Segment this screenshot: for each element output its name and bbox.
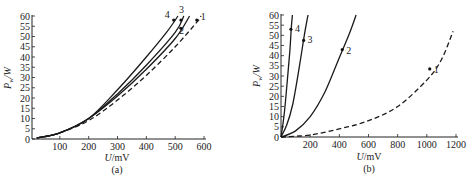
y-axis-label: Pw/W	[251, 63, 264, 88]
series-label-4: 4	[165, 9, 170, 20]
x-tick-label: 200	[303, 139, 318, 150]
x-tick-label: 400	[332, 139, 347, 150]
chart-caption: (a)	[111, 164, 122, 176]
series-label-2: 2	[346, 45, 351, 56]
x-tick-label: 600	[361, 139, 376, 150]
series-line-1	[37, 16, 201, 138]
series-label-4: 4	[295, 23, 300, 34]
y-tick-label: 15	[20, 103, 30, 114]
y-tick-label: 20	[269, 91, 279, 102]
x-tick-label: 300	[110, 141, 125, 152]
y-tick-label: 10	[20, 113, 30, 124]
y-tick-label: 40	[20, 52, 30, 63]
series-line-3	[37, 16, 184, 138]
series-label-3: 3	[179, 4, 184, 15]
y-axis-label: Pw/W	[2, 65, 15, 90]
y-tick-label: 60	[269, 10, 279, 21]
y-tick-label: 35	[20, 62, 30, 73]
series-marker	[341, 48, 344, 51]
y-tick-label: 45	[20, 41, 30, 52]
series-line-2	[281, 15, 356, 137]
series-marker	[302, 39, 305, 42]
y-tick-label: 0	[274, 132, 279, 143]
y-tick-label: 30	[20, 72, 30, 83]
series-marker	[428, 67, 431, 70]
series-marker	[172, 19, 175, 22]
y-tick-label: 15	[269, 101, 279, 112]
x-tick-label: 200	[81, 141, 96, 152]
x-tick-label: 800	[390, 139, 405, 150]
chart-caption: (b)	[363, 163, 375, 175]
series-marker	[179, 19, 182, 22]
y-tick-label: 25	[20, 82, 30, 93]
y-tick-label: 40	[269, 50, 279, 61]
x-tick-label: 100	[52, 141, 67, 152]
y-tick-label: 55	[20, 21, 30, 32]
x-axis-label: U/mV	[356, 151, 382, 162]
x-tick-label: 1000	[417, 139, 437, 150]
figure: 0510152025303540455055601002003004005006…	[0, 0, 467, 180]
y-tick-label: 60	[20, 11, 30, 22]
x-axis-label: U/mV	[104, 152, 130, 163]
x-tick-label: 600	[197, 141, 212, 152]
series-marker	[195, 19, 198, 22]
series-label-1: 1	[201, 11, 206, 22]
y-tick-label: 5	[25, 123, 30, 134]
series-line-4	[37, 16, 178, 138]
y-tick-label: 5	[274, 121, 279, 132]
y-tick-label: 25	[269, 81, 279, 92]
y-tick-label: 30	[269, 71, 279, 82]
series-label-1: 1	[434, 64, 439, 75]
y-tick-label: 50	[269, 30, 279, 41]
chart-a: 0510152025303540455055601002003004005006…	[2, 4, 212, 176]
y-tick-label: 50	[20, 31, 30, 42]
series-label-3: 3	[308, 34, 313, 45]
y-tick-label: 45	[269, 40, 279, 51]
y-tick-label: 55	[269, 20, 279, 31]
y-tick-label: 10	[269, 111, 279, 122]
y-tick-label: 35	[269, 60, 279, 71]
x-tick-label: 400	[139, 141, 154, 152]
series-line-2	[37, 16, 190, 138]
x-tick-label: 500	[168, 141, 183, 152]
series-label-2: 2	[179, 25, 184, 36]
y-tick-label: 20	[20, 93, 30, 104]
series-marker	[289, 28, 292, 31]
x-tick-label: 1200	[446, 139, 466, 150]
y-tick-label: 0	[25, 134, 30, 145]
chart-b: 0510152025303540455055602004006008001000…	[251, 10, 466, 176]
